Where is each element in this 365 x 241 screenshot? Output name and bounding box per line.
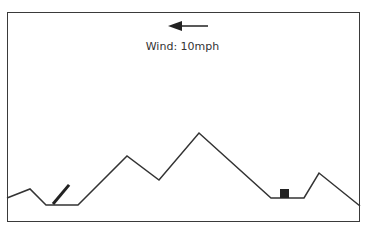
player-cannon[interactable] xyxy=(53,185,69,204)
game-canvas xyxy=(0,0,365,241)
wind-label: Wind: 10mph xyxy=(0,40,365,53)
enemy-tank xyxy=(280,189,289,198)
wind-arrow-icon xyxy=(168,21,208,31)
